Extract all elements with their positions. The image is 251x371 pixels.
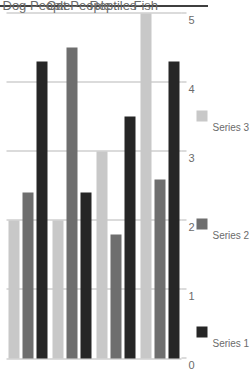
bar-group: Cat People <box>50 15 94 359</box>
category-label: Reptiles <box>90 0 137 13</box>
bar-chart-figure: 012345Dog PeopleCat PeopleReptilesFish S… <box>1 15 241 360</box>
axis-tick-mark <box>182 13 187 14</box>
bar-series-1[interactable] <box>168 62 179 359</box>
axis-tick-label: 3 <box>188 152 194 164</box>
axis-tick-label: 5 <box>188 14 194 26</box>
legend-swatch-icon <box>197 219 208 230</box>
bar-series-1[interactable] <box>37 62 48 359</box>
bar-group: Fish <box>138 15 182 359</box>
axis-tick-mark <box>182 289 187 290</box>
bar-series-2[interactable] <box>23 193 34 359</box>
plot-box: 012345Dog PeopleCat PeopleReptilesFish <box>7 15 182 360</box>
axis-tick-label: 2 <box>188 221 194 233</box>
legend-label: Series 3 <box>213 122 250 133</box>
bar-group: Dog People <box>7 15 51 359</box>
axis-tick-label: 0 <box>188 359 194 371</box>
category-label: Fish <box>134 0 159 13</box>
gridline <box>7 13 182 14</box>
axis-tick-label: 1 <box>188 290 194 302</box>
axis-tick-mark <box>182 358 187 359</box>
chart-legend: Series 1Series 2Series 3 <box>197 15 237 360</box>
axis-tick-mark <box>182 82 187 83</box>
bar-series-3[interactable] <box>53 221 64 359</box>
bar-series-2[interactable] <box>110 234 121 358</box>
bar-series-3[interactable] <box>96 152 107 359</box>
legend-label: Series 2 <box>213 230 250 241</box>
bar-series-3[interactable] <box>140 14 151 359</box>
legend-swatch-icon <box>197 111 208 122</box>
bar-series-2[interactable] <box>67 48 78 359</box>
axis-tick-mark <box>182 220 187 221</box>
bar-series-3[interactable] <box>9 221 20 359</box>
legend-label: Series 1 <box>213 338 250 349</box>
legend-swatch-icon <box>197 327 208 338</box>
axis-tick-mark <box>182 151 187 152</box>
bar-group: Reptiles <box>94 15 138 359</box>
bar-series-1[interactable] <box>81 193 92 359</box>
axis-tick-label: 4 <box>188 83 194 95</box>
bar-series-1[interactable] <box>124 117 135 359</box>
bar-series-2[interactable] <box>154 179 165 358</box>
chart-plot-area: 012345Dog PeopleCat PeopleReptilesFish <box>1 15 183 360</box>
